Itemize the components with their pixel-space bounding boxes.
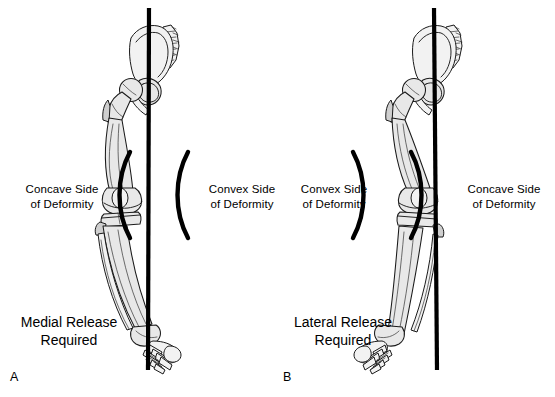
release-line-1: Lateral Release [278,313,408,331]
label-line-1: Concave Side [458,182,550,197]
bracket-arc-right-a [178,152,189,238]
panel-b: Convex Side of Deformity Concave Side of… [278,0,555,397]
label-lateral-release-b: Lateral Release Required [278,313,408,349]
mechanical-axis-line-a [148,8,149,370]
label-line-2: of Deformity [458,197,550,212]
release-line-2: Required [4,331,134,349]
label-medial-release-a: Medial Release Required [4,313,134,349]
label-line-2: of Deformity [288,197,380,212]
mechanical-axis-line-b [434,8,437,370]
panel-letter-b: B [283,371,291,384]
label-concave-side-b: Concave Side of Deformity [458,182,550,211]
panel-a: Concave Side of Deformity Convex Side of… [0,0,277,397]
label-line-2: of Deformity [16,197,108,212]
hemipelvis [129,26,173,116]
label-convex-side-a: Convex Side of Deformity [196,182,288,211]
label-convex-side-b: Convex Side of Deformity [288,182,380,211]
release-line-2: Required [278,331,408,349]
label-line-2: of Deformity [196,197,288,212]
release-line-1: Medial Release [4,313,134,331]
figure-container: Concave Side of Deformity Convex Side of… [0,0,555,397]
label-line-1: Convex Side [288,182,380,197]
label-concave-side-a: Concave Side of Deformity [16,182,108,211]
label-line-1: Convex Side [196,182,288,197]
panel-letter-a: A [10,371,18,384]
label-line-1: Concave Side [16,182,108,197]
